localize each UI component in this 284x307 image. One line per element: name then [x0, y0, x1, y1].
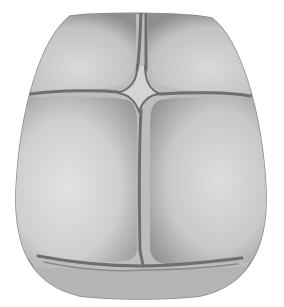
frontal-bone-right — [148, 10, 270, 94]
skull-illustration — [0, 0, 284, 307]
parietal-bone-left — [10, 97, 137, 262]
skull-svg — [0, 0, 284, 307]
parietal-bone-right — [150, 97, 275, 264]
occipital-bone — [10, 266, 275, 307]
frontal-bone-left — [20, 10, 136, 92]
